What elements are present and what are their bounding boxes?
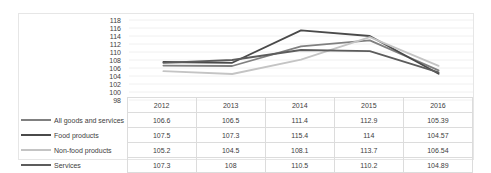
y-axis-tick: 110 — [110, 49, 121, 56]
y-axis-tick: 112 — [110, 41, 121, 48]
table-body: 20122013201420152016All goods and servic… — [19, 98, 473, 173]
table-year-header: 2013 — [196, 98, 265, 113]
y-axis-labels: 11811611411211010810610410210098 — [19, 14, 129, 102]
table-cell: 110.5 — [265, 158, 334, 173]
legend-label: Non-food products — [54, 147, 112, 154]
table-cell: 105.2 — [127, 143, 196, 158]
data-table: 20122013201420152016All goods and servic… — [19, 97, 473, 173]
table-year-header: 2016 — [403, 98, 472, 113]
legend-swatch-icon — [21, 119, 51, 121]
table-cell: 105.39 — [403, 113, 472, 128]
y-axis-tick: 104 — [109, 73, 121, 80]
table-cell: 108 — [196, 158, 265, 173]
y-axis-tick: 106 — [109, 65, 121, 72]
table-corner-cell — [19, 98, 127, 113]
table-cell: 111.4 — [265, 113, 334, 128]
table-cell: 106.54 — [403, 143, 472, 158]
legend-label: All goods and services — [54, 117, 124, 124]
table-cell: 112.9 — [334, 113, 403, 128]
legend-swatch-icon — [21, 164, 51, 166]
legend-item[interactable]: Non-food products — [19, 143, 127, 158]
table-cell: 106.5 — [196, 113, 265, 128]
table-row: Services107.3108110.5110.2104.89 — [19, 158, 473, 173]
y-axis-tick: 100 — [109, 89, 121, 96]
plot-area: 11811611411211010810610410210098 — [19, 14, 473, 102]
table-cell: 104.89 — [403, 158, 472, 173]
table-cell: 114 — [334, 128, 403, 143]
table-cell: 107.3 — [196, 128, 265, 143]
table-year-header: 2015 — [334, 98, 403, 113]
y-axis-tick: 114 — [110, 33, 121, 40]
chart-container: 11811611411211010810610410210098 2012201… — [18, 13, 474, 160]
y-axis-tick: 102 — [109, 81, 121, 88]
legend-swatch-icon — [21, 134, 51, 136]
table-row: Food products107.5107.3115.4114104.57 — [19, 128, 473, 143]
legend-swatch-icon — [21, 149, 51, 151]
table-year-header: 2012 — [127, 98, 196, 113]
y-axis-tick: 118 — [110, 17, 121, 24]
table-cell: 107.5 — [127, 128, 196, 143]
legend-item[interactable]: All goods and services — [19, 113, 127, 128]
y-axis-tick: 108 — [109, 57, 121, 64]
table-row: Non-food products105.2104.5108.1113.7106… — [19, 143, 473, 158]
table-cell: 110.2 — [334, 158, 403, 173]
table-year-header: 2014 — [265, 98, 334, 113]
table-cell: 108.1 — [265, 143, 334, 158]
legend-item[interactable]: Services — [19, 158, 127, 173]
table-header-row: 20122013201420152016 — [19, 98, 473, 113]
series-line — [163, 40, 438, 70]
table-cell: 113.7 — [334, 143, 403, 158]
table-cell: 106.6 — [127, 113, 196, 128]
y-axis-tick: 116 — [110, 25, 121, 32]
legend-item[interactable]: Food products — [19, 128, 127, 143]
line-chart-svg — [129, 14, 473, 102]
table-cell: 115.4 — [265, 128, 334, 143]
table-cell: 107.3 — [127, 158, 196, 173]
legend-label: Services — [54, 162, 81, 169]
table-row: All goods and services106.6106.5111.4112… — [19, 113, 473, 128]
table-cell: 104.5 — [196, 143, 265, 158]
table-cell: 104.57 — [403, 128, 472, 143]
legend-label: Food products — [54, 132, 99, 139]
